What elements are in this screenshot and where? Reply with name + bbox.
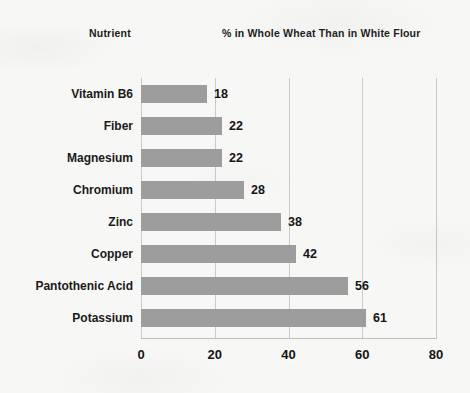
bar-value-label: 22 bbox=[229, 151, 243, 165]
bar-row[interactable]: 22 bbox=[141, 117, 470, 135]
bar-row[interactable]: 42 bbox=[141, 245, 470, 263]
category-label-fiber: Fiber bbox=[0, 119, 133, 133]
category-label-potassium: Potassium bbox=[0, 311, 133, 325]
bar-fiber[interactable] bbox=[141, 117, 222, 135]
category-label-chromium: Chromium bbox=[0, 183, 133, 197]
bar-value-label: 61 bbox=[373, 311, 387, 325]
x-tick-80: 80 bbox=[429, 347, 443, 362]
bar-value-label: 22 bbox=[229, 119, 243, 133]
x-tick-40: 40 bbox=[281, 347, 295, 362]
category-label-copper: Copper bbox=[0, 247, 133, 261]
x-axis-line bbox=[141, 338, 437, 339]
x-tick-20: 20 bbox=[208, 347, 222, 362]
bar-value-label: 18 bbox=[214, 87, 228, 101]
bar-chart: Nutrient % in Whole Wheat Than in White … bbox=[0, 0, 470, 393]
bar-copper[interactable] bbox=[141, 245, 296, 263]
x-tick-60: 60 bbox=[355, 347, 369, 362]
bar-row[interactable]: 38 bbox=[141, 213, 470, 231]
category-label-magnesium: Magnesium bbox=[0, 151, 133, 165]
bar-row[interactable]: 61 bbox=[141, 309, 470, 327]
bar-zinc[interactable] bbox=[141, 213, 281, 231]
bar-potassium[interactable] bbox=[141, 309, 366, 327]
bar-row[interactable]: 18 bbox=[141, 85, 470, 103]
bar-chromium[interactable] bbox=[141, 181, 244, 199]
bar-row[interactable]: 56 bbox=[141, 277, 470, 295]
x-tick-0: 0 bbox=[137, 347, 144, 362]
bar-row[interactable]: 22 bbox=[141, 149, 470, 167]
bar-row[interactable]: 28 bbox=[141, 181, 470, 199]
category-label-pantothenic-acid: Pantothenic Acid bbox=[0, 279, 133, 293]
bar-value-label: 28 bbox=[251, 183, 265, 197]
bar-value-label: 56 bbox=[355, 279, 369, 293]
bar-magnesium[interactable] bbox=[141, 149, 222, 167]
bar-vitamin-b6[interactable] bbox=[141, 85, 207, 103]
category-label-zinc: Zinc bbox=[0, 215, 133, 229]
bar-value-label: 42 bbox=[303, 247, 317, 261]
bar-pantothenic-acid[interactable] bbox=[141, 277, 348, 295]
header-label-nutrient: Nutrient bbox=[89, 27, 131, 39]
header-label-metric: % in Whole Wheat Than in White Flour bbox=[222, 27, 421, 39]
bar-value-label: 38 bbox=[288, 215, 302, 229]
category-label-vitamin-b6: Vitamin B6 bbox=[0, 87, 133, 101]
